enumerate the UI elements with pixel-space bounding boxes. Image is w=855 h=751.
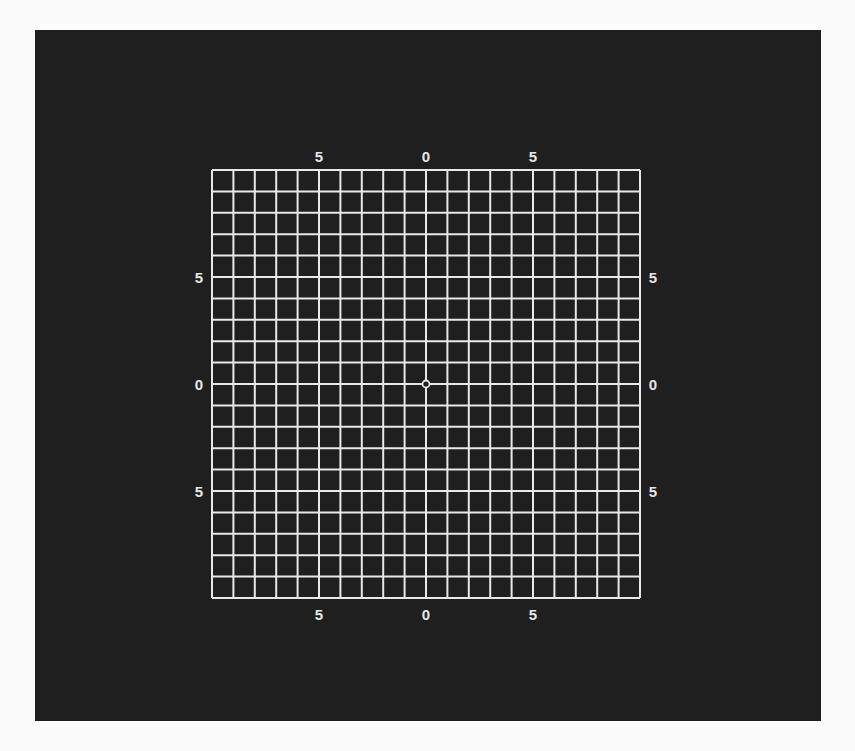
bottom-label-left: 5 xyxy=(315,606,323,623)
top-label-right: 5 xyxy=(529,148,537,165)
left-label-lower: 5 xyxy=(195,483,203,500)
amsler-grid xyxy=(0,0,855,751)
bottom-label-right: 5 xyxy=(529,606,537,623)
center-fixation-dot xyxy=(423,381,430,388)
top-label-center: 0 xyxy=(422,148,430,165)
right-label-upper: 5 xyxy=(649,269,657,286)
bottom-label-center: 0 xyxy=(422,606,430,623)
left-label-center: 0 xyxy=(195,376,203,393)
right-label-lower: 5 xyxy=(649,483,657,500)
right-label-center: 0 xyxy=(649,376,657,393)
top-label-left: 5 xyxy=(315,148,323,165)
left-label-upper: 5 xyxy=(195,269,203,286)
